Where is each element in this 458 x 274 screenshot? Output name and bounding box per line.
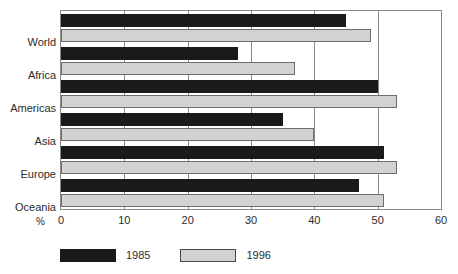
x-tick-label-60: 60	[435, 214, 447, 226]
legend-label-1985: 1985	[126, 249, 150, 261]
bar-group-oceania	[61, 176, 441, 209]
x-tick-label-40: 40	[308, 214, 320, 226]
bar-world-1996	[61, 29, 371, 42]
x-tick-label-0: 0	[58, 214, 64, 226]
legend-item-1996: 1996	[180, 249, 300, 262]
legend-item-1985: 1985	[60, 249, 180, 262]
x-tick-label-30: 30	[245, 214, 257, 226]
y-axis-label-americas: Americas	[0, 102, 56, 114]
bar-group-americas	[61, 77, 441, 110]
bar-world-1985	[61, 14, 346, 27]
bar-rows	[61, 11, 441, 209]
bar-europe-1996	[61, 161, 397, 174]
bar-group-africa	[61, 44, 441, 77]
legend-swatch-1996-icon	[180, 249, 236, 262]
bar-group-europe	[61, 143, 441, 176]
y-axis-category-labels: World Africa Americas Asia Europe Oceani…	[0, 10, 56, 210]
bar-chart: World Africa Americas Asia Europe Oceani…	[0, 0, 458, 274]
y-axis-label-africa: Africa	[0, 69, 56, 81]
bar-americas-1996	[61, 95, 397, 108]
bar-asia-1996	[61, 128, 314, 141]
x-axis-unit-label: %	[36, 216, 45, 227]
plot-area	[60, 10, 442, 210]
bar-asia-1985	[61, 113, 283, 126]
x-tick-label-10: 10	[118, 214, 130, 226]
bar-americas-1985	[61, 80, 378, 93]
x-tick-label-50: 50	[372, 214, 384, 226]
bar-oceania-1996	[61, 194, 384, 207]
bar-africa-1996	[61, 62, 295, 75]
bar-europe-1985	[61, 146, 384, 159]
bar-group-world	[61, 11, 441, 44]
bar-africa-1985	[61, 47, 238, 60]
legend: 1985 1996	[60, 246, 301, 264]
legend-label-1996: 1996	[246, 249, 270, 261]
bar-group-asia	[61, 110, 441, 143]
legend-swatch-1985-icon	[60, 249, 116, 262]
bar-oceania-1985	[61, 179, 359, 192]
y-axis-label-world: World	[0, 36, 56, 48]
x-tick-label-20: 20	[182, 214, 194, 226]
x-axis: % 0102030405060	[0, 214, 458, 234]
y-axis-label-oceania: Oceania	[0, 201, 56, 213]
y-axis-label-europe: Europe	[0, 168, 56, 180]
y-axis-label-asia: Asia	[0, 135, 56, 147]
